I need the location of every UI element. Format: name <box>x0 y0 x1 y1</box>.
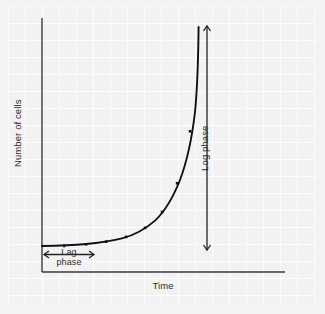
lag-phase-label: Lag phase <box>52 248 86 267</box>
data-point-marker <box>85 243 88 246</box>
lag-phase-label-line-2: phase <box>52 258 86 268</box>
log-phase-label: Log phase <box>200 103 211 193</box>
data-point-marker <box>144 227 147 230</box>
data-point-marker <box>105 240 108 243</box>
data-point-marker <box>125 236 128 239</box>
x-axis-label: Time <box>118 281 208 292</box>
growth-curve-path <box>42 27 199 246</box>
y-axis-label: Number of cells <box>13 78 24 188</box>
growth-curve-plot <box>0 0 325 314</box>
data-point-marker <box>161 211 164 214</box>
data-point-marker <box>176 182 179 185</box>
growth-curve-figure: Number of cells Time Log phase Lag phase <box>0 0 325 314</box>
data-point-marker <box>189 130 192 133</box>
